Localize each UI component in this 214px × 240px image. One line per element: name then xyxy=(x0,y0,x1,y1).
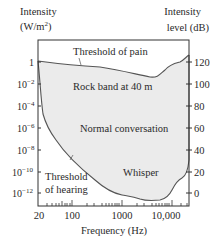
svg-text:1000: 1000 xyxy=(112,210,133,221)
pain-leader xyxy=(79,58,81,65)
label-threshold-of-pain: Threshold of pain xyxy=(73,46,148,57)
right-axis-title-line2: level (dB) xyxy=(167,22,210,34)
left-axis-title-line1: Intensity xyxy=(20,6,57,17)
svg-text:100: 100 xyxy=(64,210,80,221)
chart: Intensity (W/m2) Intensity level (dB) 1 … xyxy=(0,0,214,240)
svg-text:40: 40 xyxy=(194,145,205,156)
label-whisper: Whisper xyxy=(123,167,159,178)
svg-text:1: 1 xyxy=(29,57,34,68)
svg-text:20: 20 xyxy=(194,167,205,178)
svg-text:120: 120 xyxy=(194,57,210,68)
svg-text:10−4: 10−4 xyxy=(17,100,35,112)
left-tick-labels: 1 10−2 10−4 10−6 10−8 10−10 10−12 xyxy=(12,57,35,199)
svg-text:10,000: 10,000 xyxy=(152,210,181,221)
svg-text:80: 80 xyxy=(194,101,205,112)
svg-text:20: 20 xyxy=(34,210,45,221)
svg-text:100: 100 xyxy=(194,79,210,90)
label-threshold-of-hearing-1: Threshold xyxy=(45,171,88,182)
x-tick-labels: 20 100 1000 10,000 xyxy=(34,210,181,221)
label-threshold-of-hearing-2: of hearing xyxy=(45,184,89,195)
label-normal-conversation: Normal conversation xyxy=(80,123,169,134)
svg-text:10−12: 10−12 xyxy=(12,187,33,199)
right-tick-labels: 120 100 80 60 40 20 0 xyxy=(194,57,210,199)
left-axis-title-line2: (W/m2) xyxy=(20,20,52,33)
svg-text:0: 0 xyxy=(194,188,199,199)
svg-text:10−10: 10−10 xyxy=(12,166,33,178)
label-rock-band: Rock band at 40 m xyxy=(73,81,152,92)
x-axis-title: Frequency (Hz) xyxy=(81,225,148,237)
svg-text:10−2: 10−2 xyxy=(17,78,35,90)
right-axis-title-line1: Intensity xyxy=(164,6,201,17)
x-axis-ticks xyxy=(47,200,187,206)
svg-text:10−8: 10−8 xyxy=(17,144,35,156)
svg-text:10−6: 10−6 xyxy=(17,122,35,134)
svg-text:60: 60 xyxy=(194,123,205,134)
